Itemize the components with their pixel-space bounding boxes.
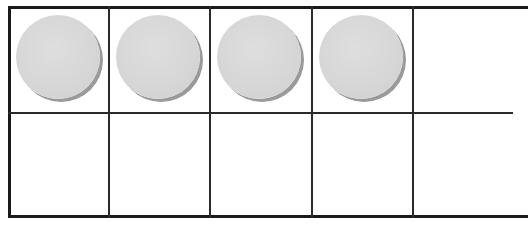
counter-circle [319, 15, 403, 99]
ten-frame-cell [10, 8, 108, 112]
ten-frame-cell [211, 114, 309, 218]
ten-frame-cell [414, 8, 512, 112]
counter-circle [116, 15, 200, 99]
counter-circle [16, 15, 100, 99]
ten-frame-cell [110, 8, 208, 112]
ten-frame-cell [211, 8, 309, 112]
ten-frame-cell [414, 114, 512, 218]
ten-frame-cell [10, 114, 108, 218]
counter-circle [217, 15, 301, 99]
ten-frame-cell [313, 8, 411, 112]
ten-frame-cell [110, 114, 208, 218]
ten-frame-cell [313, 114, 411, 218]
